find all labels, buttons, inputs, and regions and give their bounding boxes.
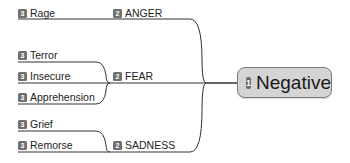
- level-badge: 1: [246, 77, 251, 89]
- level-badge: 3: [18, 141, 27, 150]
- central-topic-negative[interactable]: 1 Negative: [237, 67, 332, 98]
- topic-label: Remorse: [30, 139, 73, 151]
- level-badge: 3: [18, 120, 27, 129]
- topic-label: ANGER: [125, 7, 162, 19]
- level-badge: 2: [113, 72, 122, 81]
- central-topic-label: Negative: [256, 72, 331, 94]
- topic-label: Terror: [30, 49, 57, 61]
- topic-anger[interactable]: 2 ANGER: [113, 7, 162, 19]
- level-badge: 3: [18, 51, 27, 60]
- topic-insecure[interactable]: 3 Insecure: [18, 70, 70, 82]
- topic-grief[interactable]: 3 Grief: [18, 118, 53, 130]
- topic-label: Insecure: [30, 70, 70, 82]
- topic-rage[interactable]: 3 Rage: [18, 7, 55, 19]
- topic-terror[interactable]: 3 Terror: [18, 49, 57, 61]
- level-badge: 2: [113, 9, 122, 18]
- topic-fear[interactable]: 2 FEAR: [113, 70, 153, 82]
- level-badge: 2: [113, 141, 122, 150]
- topic-label: FEAR: [125, 70, 153, 82]
- topic-remorse[interactable]: 3 Remorse: [18, 139, 73, 151]
- topic-apprehension[interactable]: 3 Apprehension: [18, 91, 95, 103]
- level-badge: 3: [18, 72, 27, 81]
- topic-sadness[interactable]: 2 SADNESS: [113, 139, 175, 151]
- topic-label: Apprehension: [30, 91, 95, 103]
- level-badge: 3: [18, 9, 27, 18]
- topic-label: Grief: [30, 118, 53, 130]
- topic-label: Rage: [30, 7, 55, 19]
- topic-label: SADNESS: [125, 139, 175, 151]
- level-badge: 3: [18, 93, 27, 102]
